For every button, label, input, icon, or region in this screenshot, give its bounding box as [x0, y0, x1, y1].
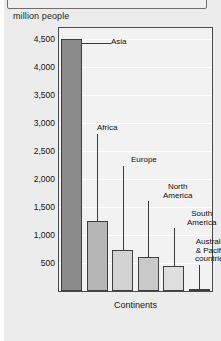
y-axis-tick-label: 500 [0, 258, 55, 268]
leader-line [148, 201, 149, 257]
bar [138, 257, 159, 291]
leader-line [199, 265, 200, 289]
y-axis-tick-label: 4,000 [0, 62, 55, 72]
leader-line [82, 43, 111, 44]
plot-area: 5001,0001,5002,0002,5003,0003,5004,0004,… [58, 27, 213, 292]
y-axis-tick-label: 3,000 [0, 118, 55, 128]
leader-line [123, 166, 124, 251]
bar [61, 39, 82, 291]
y-axis-unit-label: million people [13, 11, 69, 21]
leader-line [174, 228, 175, 266]
chart-page: million people 5001,0001,5002,0002,5003,… [0, 0, 221, 341]
bar-label-south-america: South America [187, 210, 216, 227]
y-axis-tick-label: 1,500 [0, 202, 55, 212]
bar [189, 289, 210, 291]
bar-label-asia: Asia [111, 38, 127, 47]
bar-label-north-america: North America [163, 183, 192, 200]
y-axis-tick-label: 4,500 [0, 34, 55, 44]
bar [163, 266, 184, 291]
bar [87, 221, 108, 291]
y-axis-tick-label: 2,500 [0, 146, 55, 156]
x-axis-title: Continents [58, 300, 213, 310]
y-axis-tick-label: 1,000 [0, 230, 55, 240]
top-caption-box [7, 0, 207, 9]
y-axis-tick-label: 2,000 [0, 174, 55, 184]
bar-label-australia-pacific-countries: Australia & Pacific countries [195, 238, 221, 264]
bar-label-africa: Africa [97, 124, 117, 133]
leader-line [97, 134, 98, 221]
y-axis-tick-label: 3,500 [0, 90, 55, 100]
bar [112, 250, 133, 291]
bar-label-europe: Europe [131, 156, 157, 165]
